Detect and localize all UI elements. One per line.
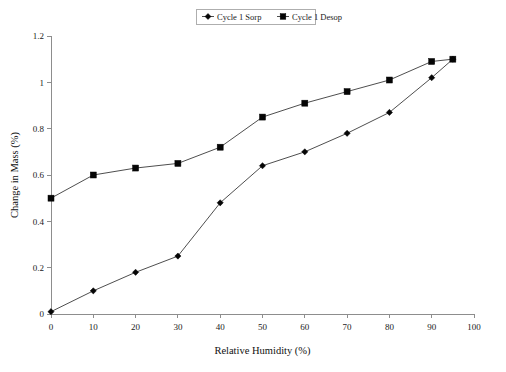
y-tick-label: 0	[40, 309, 45, 319]
data-point-square	[133, 165, 139, 171]
chart-page: 00.20.40.60.811.20102030405060708090100R…	[0, 0, 506, 372]
data-point-square	[302, 100, 308, 106]
x-tick-label: 10	[89, 322, 99, 332]
y-tick-label: 1.2	[33, 31, 44, 41]
data-point-diamond	[302, 149, 308, 155]
data-point-square	[429, 58, 435, 64]
x-tick-label: 80	[385, 322, 395, 332]
x-tick-label: 40	[216, 322, 226, 332]
humidity-sorption-chart: 00.20.40.60.811.20102030405060708090100R…	[0, 0, 506, 372]
x-tick-label: 50	[258, 322, 268, 332]
legend-label-1: Cycle 1 Desop	[292, 12, 342, 22]
y-tick-label: 0.4	[33, 217, 45, 227]
data-point-square	[450, 56, 456, 62]
y-tick-label: 1	[40, 78, 45, 88]
data-point-square	[217, 144, 223, 150]
x-tick-label: 0	[49, 322, 54, 332]
x-tick-label: 30	[173, 322, 183, 332]
legend-marker-square	[280, 14, 286, 20]
x-tick-label: 60	[300, 322, 310, 332]
data-point-square	[90, 172, 96, 178]
y-tick-label: 0.8	[33, 124, 45, 134]
x-tick-label: 20	[131, 322, 141, 332]
data-point-square	[260, 114, 266, 120]
data-point-square	[175, 160, 181, 166]
x-tick-label: 100	[467, 322, 481, 332]
data-point-diamond	[344, 130, 350, 136]
data-point-square	[344, 89, 350, 95]
data-point-square	[48, 195, 54, 201]
legend-label-0: Cycle 1 Sorp	[217, 12, 261, 22]
data-point-diamond	[133, 269, 139, 275]
y-axis-title: Change in Mass (%)	[9, 131, 21, 218]
data-point-square	[386, 77, 392, 83]
series-line-0	[51, 59, 453, 312]
x-tick-label: 90	[427, 322, 437, 332]
y-tick-label: 0.6	[33, 170, 45, 180]
x-axis-title: Relative Humidity (%)	[214, 345, 311, 357]
x-tick-label: 70	[343, 322, 353, 332]
y-tick-label: 0.2	[33, 263, 44, 273]
data-point-diamond	[90, 288, 96, 294]
